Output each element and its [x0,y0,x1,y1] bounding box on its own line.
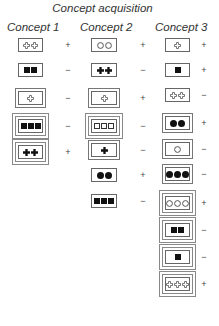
stimulus-card [18,63,43,77]
cross-icon [101,95,108,102]
square-filled-group [175,254,181,260]
positive-sign: + [64,40,72,50]
negative-sign: − [200,225,208,235]
circle-filled-group [166,171,189,178]
negative-sign: − [200,169,208,179]
cross-icon [27,95,34,102]
circle-icon [166,200,173,207]
negative-sign: − [139,196,147,206]
square-icon [178,227,184,233]
negative-sign: − [200,90,208,100]
square-icon [21,123,27,129]
square-icon [101,123,107,129]
circle-icon [97,172,104,179]
cross-filled-group [23,149,38,156]
stimulus-card [165,88,190,102]
cross-icon [31,42,38,49]
cross-filled-group [101,147,108,154]
circle-filled-group [97,172,112,179]
cross-icon [178,92,185,99]
cross-outline-group [101,95,108,102]
square-icon [94,198,100,204]
square-icon [175,254,181,260]
negative-sign: − [139,121,147,131]
square-icon [101,198,107,204]
stimulus-card [165,223,190,237]
cross-outline-group [170,92,185,99]
circle-icon [105,42,112,49]
stimulus-card [165,38,190,52]
stimulus-card [91,38,117,52]
cross-icon [174,42,181,49]
stimulus-card [18,91,43,105]
square-filled-group [24,67,37,73]
stimulus-card [165,116,190,130]
square-icon [24,67,30,73]
square-outline-group [94,123,114,129]
negative-sign: − [139,145,147,155]
cross-outline-group [23,42,38,49]
stimulus-card [91,194,117,208]
square-filled-group [175,67,181,73]
square-icon [175,67,181,73]
cross-icon [166,281,173,288]
negative-sign: − [64,93,72,103]
square-icon [35,123,41,129]
square-icon [108,198,114,204]
stimulus-card [18,119,43,133]
cross-outline-group [166,281,189,288]
cross-outline-group [27,95,34,102]
positive-sign: + [200,40,208,50]
stimulus-card [165,63,190,77]
positive-sign: + [139,93,147,103]
circle-icon [97,42,104,49]
stimulus-card [165,277,190,291]
negative-sign: − [200,144,208,154]
cross-outline-group [174,42,181,49]
circle-icon [166,171,173,178]
stimulus-card [165,142,190,156]
positive-sign: + [139,40,147,50]
circle-icon [170,120,177,127]
column-header-concept-1: Concept 1 [7,21,59,33]
circle-icon [182,171,189,178]
diagram-title: Concept acquisition [0,2,205,14]
column-header-concept-3: Concept 3 [155,21,207,33]
circle-outline-group [174,146,181,153]
negative-sign: − [200,252,208,262]
circle-filled-group [170,120,185,127]
cross-icon [170,92,177,99]
cross-filled-group [97,67,112,74]
square-icon [94,123,100,129]
circle-outline-group [97,42,112,49]
stimulus-card [18,145,43,159]
negative-sign: − [64,65,72,75]
positive-sign: + [200,198,208,208]
stimulus-card [18,38,43,52]
circle-icon [174,200,181,207]
cross-icon [23,149,30,156]
stimulus-card [91,63,117,77]
stimulus-card [165,196,190,210]
positive-sign: + [64,147,72,157]
circle-outline-group [166,200,189,207]
circle-icon [174,171,181,178]
stimulus-card [91,143,117,157]
square-filled-group [21,123,41,129]
positive-sign: + [200,65,208,75]
square-filled-group [94,198,114,204]
square-icon [31,67,37,73]
cross-icon [105,67,112,74]
square-filled-group [171,227,184,233]
circle-icon [182,200,189,207]
stimulus-card [165,250,190,264]
negative-sign: − [64,121,72,131]
circle-icon [105,172,112,179]
square-icon [171,227,177,233]
cross-icon [97,67,104,74]
negative-sign: − [139,65,147,75]
square-icon [28,123,34,129]
cross-icon [23,42,30,49]
column-header-concept-2: Concept 2 [80,21,132,33]
stimulus-card [165,167,190,181]
